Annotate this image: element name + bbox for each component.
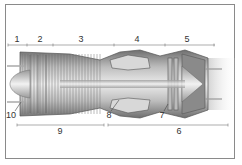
engine-illustration — [0, 0, 242, 165]
exhaust-plume — [208, 58, 238, 110]
bottom-dimension-lines — [17, 124, 228, 127]
main-shaft — [60, 80, 185, 88]
label-4-combustion: 4 — [134, 35, 139, 44]
label-8: 8 — [106, 111, 111, 120]
label-6-hot-section: 6 — [176, 127, 181, 136]
intake-spinner — [10, 70, 30, 98]
label-1-intake: 1 — [14, 35, 19, 44]
label-9-cold-section: 9 — [57, 127, 62, 136]
label-3-high-pressure-compressor: 3 — [78, 35, 83, 44]
label-10: 10 — [6, 111, 16, 120]
label-7: 7 — [159, 111, 164, 120]
label-2-low-pressure-compressor: 2 — [37, 35, 42, 44]
label-5-exhaust: 5 — [184, 35, 189, 44]
